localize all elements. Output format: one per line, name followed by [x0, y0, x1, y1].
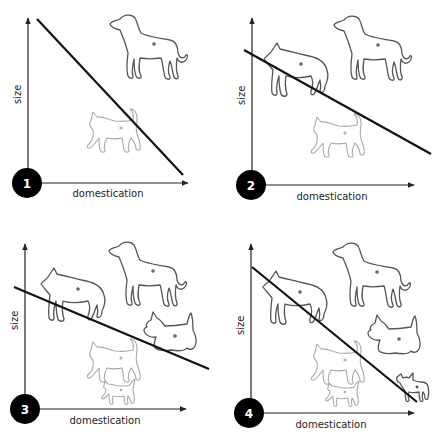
panel-number: 3	[21, 403, 29, 417]
kitten-icon	[326, 381, 360, 407]
panel-1: size domestication 1	[12, 15, 188, 199]
hound-dog-icon	[110, 15, 187, 79]
y-axis-label: size	[236, 86, 247, 105]
figure-canvas: size domestication 1 size domestication …	[0, 0, 438, 437]
panel-2: size domestication 2	[236, 16, 431, 202]
y-axis-label: size	[9, 311, 20, 330]
terrier-icon	[368, 315, 420, 354]
hound-dog-icon	[334, 16, 411, 80]
x-axis-label: domestication	[296, 191, 367, 202]
wolf-icon	[263, 271, 327, 324]
wolf-icon	[41, 268, 105, 321]
hound-dog-icon	[109, 242, 186, 306]
kitten-icon	[102, 379, 136, 405]
cat-icon	[311, 114, 364, 157]
panel-number: 4	[245, 407, 253, 421]
trend-line	[14, 287, 209, 369]
cat-icon	[87, 339, 140, 382]
panel-3: size domestication 3	[9, 242, 209, 426]
x-axis-label: domestication	[72, 188, 143, 199]
cat-icon	[311, 341, 364, 384]
panel-4: size domestication 4	[234, 243, 429, 430]
panel-number: 2	[247, 179, 255, 193]
panel-number: 1	[23, 177, 31, 191]
trend-line	[37, 19, 183, 175]
cat-icon	[87, 109, 140, 152]
trend-line	[252, 267, 417, 402]
wolf-icon	[264, 43, 328, 96]
trend-line	[244, 50, 431, 154]
y-axis-label: size	[12, 85, 23, 104]
y-axis-label: size	[235, 316, 246, 335]
hound-dog-icon	[333, 243, 410, 307]
x-axis-label: domestication	[295, 419, 366, 430]
x-axis-label: domestication	[69, 415, 140, 426]
